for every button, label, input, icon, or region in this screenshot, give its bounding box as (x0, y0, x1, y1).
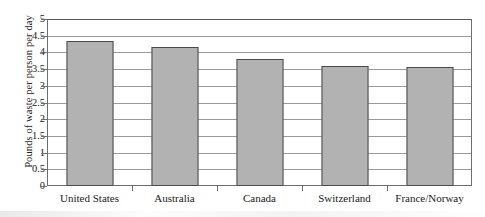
x-axis-label: Canada (243, 192, 276, 204)
scan-artifact (0, 211, 485, 217)
bars-layer (47, 19, 472, 186)
y-tick-label: 0.5 (11, 164, 45, 175)
y-tick-label: 1 (11, 147, 45, 158)
y-tick-label: 4.5 (11, 30, 45, 41)
bar-slot (387, 19, 472, 186)
bar (236, 59, 283, 186)
x-axis-label: Switzerland (318, 192, 371, 204)
x-axis-label: United States (60, 192, 119, 204)
bar-slot (217, 19, 302, 186)
y-tick-label: 3 (11, 81, 45, 92)
bar (66, 41, 113, 186)
y-tick-label: 2 (11, 114, 45, 125)
bar-slot (132, 19, 217, 186)
x-tick-mark (132, 186, 133, 191)
y-tick-label: 0 (11, 181, 45, 192)
y-tick-label: 1.5 (11, 131, 45, 142)
x-tick-mark (217, 186, 218, 191)
y-tick-mark (41, 186, 47, 187)
bar-slot (47, 19, 132, 186)
y-tick-label: 4 (11, 47, 45, 58)
bar (151, 47, 198, 186)
bar (321, 66, 368, 186)
bar (406, 67, 453, 186)
x-axis-label: Australia (154, 192, 194, 204)
bar-slot (302, 19, 387, 186)
x-axis-label: France/Norway (395, 192, 463, 204)
x-tick-mark (387, 186, 388, 191)
x-tick-mark (302, 186, 303, 191)
y-tick-label: 2.5 (11, 97, 45, 108)
y-tick-label: 5 (11, 14, 45, 25)
y-axis-title: Pounds of waste per person per day (23, 0, 34, 187)
y-tick-label: 3.5 (11, 64, 45, 75)
bar-chart: Pounds of waste per person per day 00.51… (0, 0, 485, 217)
